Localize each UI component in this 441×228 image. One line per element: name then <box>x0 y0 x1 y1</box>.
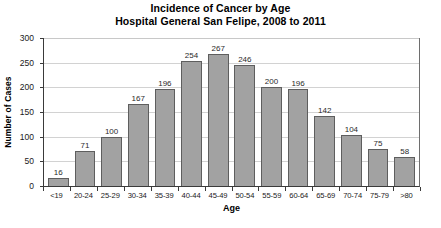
x-axis-tick <box>420 187 421 191</box>
bar-slot: 196 <box>285 38 312 186</box>
bar[interactable] <box>341 135 362 186</box>
plot-area: 050100150200250300 167110016719625426724… <box>43 38 420 187</box>
bar[interactable] <box>368 149 389 186</box>
bar-value-label: 75 <box>365 139 392 148</box>
bar-value-label: 71 <box>72 141 99 150</box>
bar[interactable] <box>314 116 335 186</box>
x-axis-tick-label: 75-79 <box>366 191 393 200</box>
bar-value-label: 267 <box>205 44 232 53</box>
x-axis-tick-label: 40-44 <box>178 191 205 200</box>
bar-value-label: 254 <box>178 51 205 60</box>
bar-value-label: 142 <box>311 106 338 115</box>
bar[interactable] <box>261 87 282 186</box>
bar-slot: 267 <box>205 38 232 186</box>
y-axis-tick-label: 300 <box>20 33 34 43</box>
bar-value-label: 104 <box>338 125 365 134</box>
bar-slot: 75 <box>365 38 392 186</box>
x-axis-tick-labels: <1920-2425-2930-3435-3940-4445-4950-5455… <box>43 191 420 200</box>
x-axis-tick-label: 45-49 <box>205 191 232 200</box>
y-axis-tick-label: 50 <box>25 156 34 166</box>
x-axis-tick-label: 20-24 <box>70 191 97 200</box>
bar[interactable] <box>181 61 202 186</box>
x-axis-title: Age <box>43 203 420 213</box>
bar-slot: 16 <box>45 38 72 186</box>
x-axis-tick-label: 60-64 <box>285 191 312 200</box>
bar-slot: 58 <box>391 38 418 186</box>
bar[interactable] <box>101 137 122 186</box>
x-axis-tick-label: 30-34 <box>124 191 151 200</box>
x-axis-tick-label: 55-59 <box>258 191 285 200</box>
bar[interactable] <box>75 151 96 186</box>
x-axis-tick-label: <19 <box>43 191 70 200</box>
bar[interactable] <box>288 89 309 186</box>
y-axis-tick-label: 0 <box>29 181 34 191</box>
bar[interactable] <box>48 178 69 186</box>
bar-slot: 71 <box>72 38 99 186</box>
chart-title-line-1: Incidence of Cancer by Age <box>151 2 291 14</box>
bar-value-label: 58 <box>391 147 418 156</box>
chart-title: Incidence of Cancer by Age Hospital Gene… <box>0 2 441 28</box>
bar-value-label: 16 <box>45 168 72 177</box>
bar-value-label: 167 <box>125 94 152 103</box>
bar-slot: 167 <box>125 38 152 186</box>
x-axis-tick-label: 50-54 <box>231 191 258 200</box>
chart-subtitle: Hospital General San Felipe, 2008 to 201… <box>0 15 441 28</box>
bar-slot: 196 <box>152 38 179 186</box>
bar-slot: 104 <box>338 38 365 186</box>
bar-slot: 200 <box>258 38 285 186</box>
bar-slot: 254 <box>178 38 205 186</box>
y-axis-tick-label: 100 <box>20 132 34 142</box>
bar-chart-figure: Incidence of Cancer by Age Hospital Gene… <box>0 0 441 228</box>
bar-value-label: 246 <box>231 55 258 64</box>
y-axis-tick-label: 150 <box>20 107 34 117</box>
x-axis-tick-label: 70-74 <box>339 191 366 200</box>
bar[interactable] <box>394 157 415 186</box>
bar[interactable] <box>155 89 176 186</box>
x-axis-tick-label: 25-29 <box>97 191 124 200</box>
bar-value-label: 196 <box>152 79 179 88</box>
y-axis-title: Number of Cases <box>1 56 15 168</box>
bar[interactable] <box>128 104 149 186</box>
bar-series: 16711001671962542672462001961421047558 <box>44 38 419 186</box>
y-axis-tick-label: 250 <box>20 58 34 68</box>
bar[interactable] <box>234 65 255 186</box>
x-axis-tick-label: 65-69 <box>312 191 339 200</box>
bar-value-label: 100 <box>98 127 125 136</box>
y-axis-title-text: Number of Cases <box>3 76 13 147</box>
bar-slot: 100 <box>98 38 125 186</box>
bar-slot: 142 <box>311 38 338 186</box>
bar-value-label: 200 <box>258 77 285 86</box>
y-axis-tick-label: 200 <box>20 82 34 92</box>
x-axis-tick-label: >80 <box>393 191 420 200</box>
bar-slot: 246 <box>231 38 258 186</box>
x-axis-tick-label: 35-39 <box>151 191 178 200</box>
bar[interactable] <box>208 54 229 186</box>
bar-value-label: 196 <box>285 79 312 88</box>
